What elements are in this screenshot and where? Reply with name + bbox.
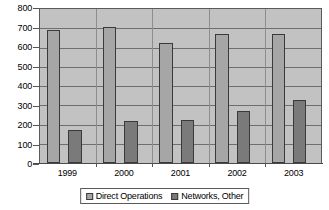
bar[interactable] — [215, 34, 228, 163]
bar[interactable] — [47, 30, 60, 163]
bar-group — [265, 9, 321, 163]
x-axis-label: 1999 — [39, 168, 96, 179]
chart-legend: Direct OperationsNetworks, Other — [80, 188, 250, 204]
legend-label: Networks, Other — [181, 191, 243, 201]
legend-entry[interactable]: Networks, Other — [171, 191, 243, 201]
y-axis-label: 0 — [2, 160, 32, 169]
bar-group — [209, 9, 265, 163]
y-axis-label: 800 — [2, 4, 32, 13]
x-axis-label: 2003 — [265, 168, 322, 179]
x-axis-tick — [152, 163, 153, 167]
x-axis-tick — [209, 163, 210, 167]
legend-swatch-icon — [86, 193, 93, 200]
bar[interactable] — [103, 27, 116, 163]
bar-groups — [40, 9, 321, 163]
bar[interactable] — [68, 130, 81, 163]
legend-label: Direct Operations — [96, 191, 163, 201]
legend-swatch-icon — [171, 193, 178, 200]
bar-group — [152, 9, 208, 163]
y-axis-label: 300 — [2, 101, 32, 110]
y-axis-label: 600 — [2, 43, 32, 52]
bar[interactable] — [293, 100, 306, 163]
y-axis-label: 500 — [2, 62, 32, 71]
x-axis-label: 2001 — [152, 168, 209, 179]
bar[interactable] — [237, 111, 250, 163]
y-axis-tick-labels: 8007006005004003002001000 — [2, 8, 32, 164]
y-axis-label: 700 — [2, 23, 32, 32]
bar[interactable] — [272, 34, 285, 163]
x-axis-label: 2000 — [96, 168, 153, 179]
bar-group — [40, 9, 96, 163]
x-axis-tick — [96, 163, 97, 167]
legend-entry[interactable]: Direct Operations — [86, 191, 163, 201]
y-axis-label: 400 — [2, 82, 32, 91]
x-axis-label: 2002 — [209, 168, 266, 179]
bar[interactable] — [159, 43, 172, 163]
y-axis-label: 100 — [2, 140, 32, 149]
bar[interactable] — [124, 121, 137, 163]
plot-wrapper: 8007006005004003002001000 19992000200120… — [0, 0, 329, 182]
plot-area — [39, 8, 322, 164]
bar[interactable] — [181, 120, 194, 163]
y-axis-label: 200 — [2, 121, 32, 130]
bar-group — [96, 9, 152, 163]
bar-chart: 8007006005004003002001000 19992000200120… — [0, 0, 329, 210]
x-axis-tick-labels: 19992000200120022003 — [39, 168, 322, 179]
x-axis-tick — [265, 163, 266, 167]
x-axis-tick-marks — [39, 163, 322, 167]
